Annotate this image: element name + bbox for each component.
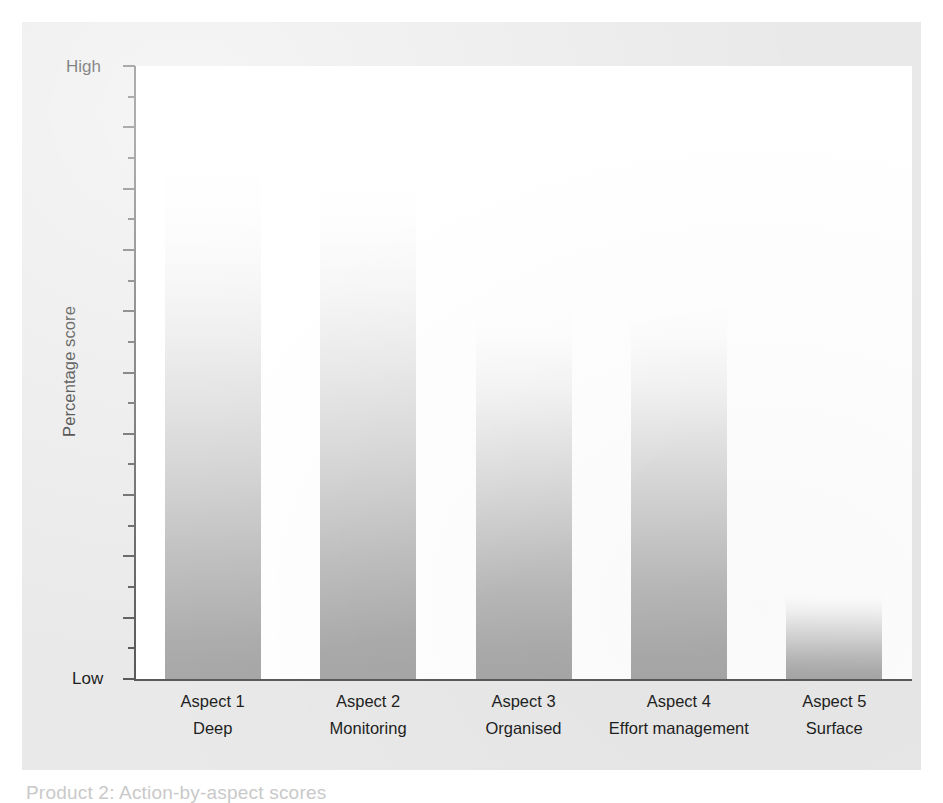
x-axis-label: Aspect 4Effort management bbox=[601, 688, 756, 741]
y-axis-tick bbox=[123, 310, 135, 312]
x-axis-label-sublabel: Surface bbox=[757, 715, 912, 742]
y-axis-tick bbox=[123, 617, 135, 619]
y-axis-tick bbox=[128, 586, 135, 588]
y-axis-high-label: High bbox=[66, 57, 101, 77]
y-axis-tick bbox=[128, 647, 135, 649]
x-axis-label-sublabel: Organised bbox=[446, 715, 601, 742]
x-axis-line bbox=[134, 679, 912, 681]
y-axis-tick bbox=[123, 678, 135, 680]
figure-caption: Product 2: Action-by-aspect scores bbox=[26, 782, 326, 803]
y-axis-tick bbox=[128, 157, 135, 159]
y-axis-tick bbox=[123, 126, 135, 128]
x-axis-label-category: Aspect 3 bbox=[446, 688, 601, 715]
bar bbox=[165, 164, 261, 679]
bar bbox=[631, 305, 727, 679]
x-axis-label-category: Aspect 1 bbox=[135, 688, 290, 715]
y-axis-tick bbox=[123, 249, 135, 251]
figure-panel: Percentage score High Low Aspect 1DeepAs… bbox=[22, 22, 921, 770]
y-axis-tick bbox=[123, 188, 135, 190]
y-axis-tick bbox=[128, 280, 135, 282]
x-axis-label-sublabel: Monitoring bbox=[290, 715, 445, 742]
y-axis-tick bbox=[123, 433, 135, 435]
x-axis-label: Aspect 5Surface bbox=[757, 688, 912, 741]
bar bbox=[476, 305, 572, 679]
y-axis-tick bbox=[123, 372, 135, 374]
x-axis-label-sublabel: Deep bbox=[135, 715, 290, 742]
y-axis-low-label: Low bbox=[72, 669, 103, 689]
x-axis-label-sublabel: Effort management bbox=[601, 715, 756, 742]
y-axis-title: Percentage score bbox=[60, 292, 79, 452]
bar bbox=[786, 593, 882, 679]
y-axis-tick bbox=[123, 555, 135, 557]
bar bbox=[320, 176, 416, 679]
x-axis-label-category: Aspect 2 bbox=[290, 688, 445, 715]
y-axis-tick bbox=[128, 96, 135, 98]
y-axis-tick bbox=[128, 218, 135, 220]
y-axis-tick bbox=[128, 402, 135, 404]
x-axis-label-category: Aspect 5 bbox=[757, 688, 912, 715]
y-axis-tick bbox=[123, 65, 135, 67]
x-axis-label: Aspect 3Organised bbox=[446, 688, 601, 741]
y-axis-tick bbox=[128, 525, 135, 527]
x-axis-label-category: Aspect 4 bbox=[601, 688, 756, 715]
y-axis-tick bbox=[128, 341, 135, 343]
y-axis-tick bbox=[123, 494, 135, 496]
x-axis-label: Aspect 2Monitoring bbox=[290, 688, 445, 741]
x-axis-label: Aspect 1Deep bbox=[135, 688, 290, 741]
y-axis-tick bbox=[128, 463, 135, 465]
